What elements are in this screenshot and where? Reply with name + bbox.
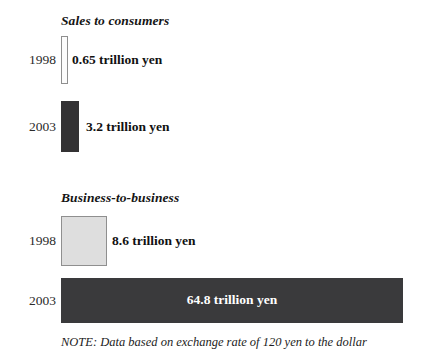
value-label-consumers-1998: 0.65 trillion yen [72,52,162,68]
group-title-business-to-business: Business-to-business [61,190,179,206]
value-label-consumers-2003: 3.2 trillion yen [86,119,170,135]
chart-container: Sales to consumers 1998 0.65 trillion ye… [0,0,434,360]
bar-consumers-1998 [61,36,68,84]
bar-b2b-1998 [61,216,107,266]
group-title-sales-to-consumers: Sales to consumers [61,13,169,29]
value-label-b2b-2003: 64.8 trillion yen [61,292,403,308]
year-label-2003-consumers: 2003 [14,119,56,135]
bar-consumers-2003 [61,101,79,152]
value-label-b2b-1998: 8.6 trillion yen [112,233,196,249]
year-label-1998-consumers: 1998 [14,52,56,68]
year-label-1998-b2b: 1998 [14,233,56,249]
chart-note: NOTE: Data based on exchange rate of 120… [61,335,367,350]
year-label-2003-b2b: 2003 [14,293,56,309]
